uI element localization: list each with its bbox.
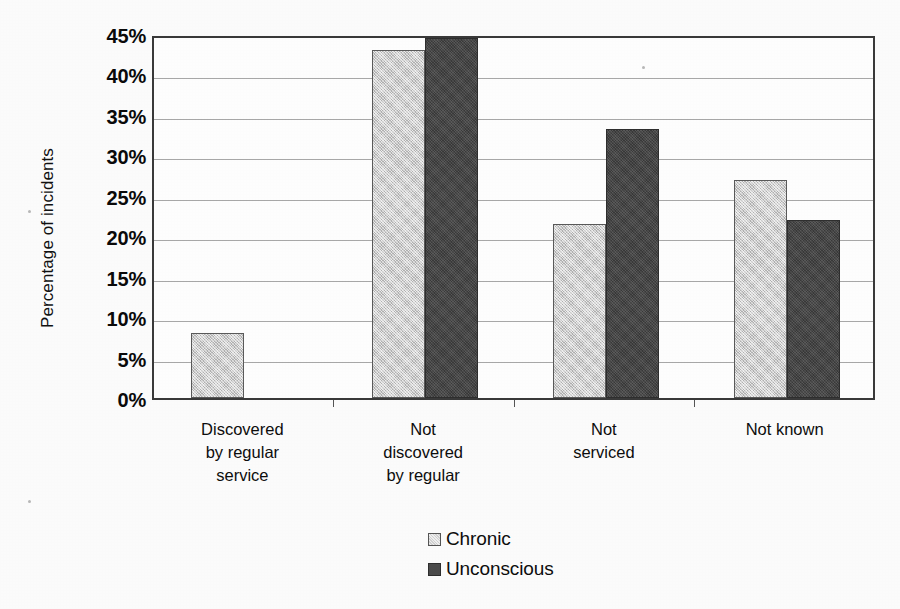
x-axis-tick-mark: [514, 400, 515, 407]
y-axis-tick-label: 20%: [72, 227, 146, 250]
bar-chronic-0: [191, 333, 244, 398]
x-axis-tick-mark: [333, 400, 334, 407]
y-axis-tick-label: 15%: [72, 267, 146, 290]
x-axis-category-label-line: discovered: [328, 441, 518, 464]
scan-speck: [642, 66, 645, 69]
y-axis-tick-label: 0%: [72, 389, 146, 412]
y-axis-tick-labels: 0%5%10%15%20%25%30%35%40%45%: [62, 0, 146, 609]
x-axis-category-label: Not known: [690, 418, 880, 441]
x-axis-category-label-line: by regular: [147, 441, 337, 464]
x-axis-category-label-line: Not: [328, 418, 518, 441]
y-axis-tick-label: 30%: [72, 146, 146, 169]
plot-area: [152, 36, 875, 400]
legend-label-unconscious: Unconscious: [446, 554, 554, 584]
y-axis-tick-label: 5%: [72, 348, 146, 371]
y-axis-title: Percentage of incidents: [38, 108, 58, 368]
bar-chart-figure: Percentage of incidents 0%5%10%15%20%25%…: [0, 0, 900, 609]
gridline: [154, 78, 873, 79]
bar-unconscious-1: [425, 38, 478, 398]
bar-unconscious-2: [606, 129, 659, 398]
x-axis-category-label: Discoveredby regularservice: [147, 418, 337, 487]
scan-speck: [28, 210, 31, 213]
light-gray-swatch-icon: [428, 533, 441, 546]
bar-unconscious-3: [787, 220, 840, 398]
bar-chronic-3: [734, 180, 787, 398]
legend-item-chronic: Chronic: [428, 524, 554, 554]
gridline: [154, 119, 873, 120]
x-axis-category-label-line: Discovered: [147, 418, 337, 441]
gridline: [154, 159, 873, 160]
x-axis-category-label-line: serviced: [509, 441, 699, 464]
x-axis-category-label-line: Not known: [690, 418, 880, 441]
y-axis-tick-label: 40%: [72, 65, 146, 88]
x-axis-category-label: Notserviced: [509, 418, 699, 464]
dark-gray-swatch-icon: [428, 563, 441, 576]
x-axis-category-label-line: by regular: [328, 464, 518, 487]
y-axis-tick-label: 10%: [72, 308, 146, 331]
chart-legend: Chronic Unconscious: [428, 524, 554, 584]
bar-chronic-1: [372, 50, 425, 398]
x-axis-category-label-line: service: [147, 464, 337, 487]
bar-chronic-2: [553, 224, 606, 398]
y-axis-tick-label: 35%: [72, 105, 146, 128]
y-axis-tick-label: 25%: [72, 186, 146, 209]
y-axis-tick-label: 45%: [72, 25, 146, 48]
x-axis-tick-mark: [694, 400, 695, 407]
x-axis-category-label-line: Not: [509, 418, 699, 441]
x-axis-category-label: Notdiscoveredby regular: [328, 418, 518, 487]
plot-inner: [154, 38, 873, 398]
legend-label-chronic: Chronic: [446, 524, 511, 554]
scan-speck: [28, 500, 31, 503]
legend-item-unconscious: Unconscious: [428, 554, 554, 584]
